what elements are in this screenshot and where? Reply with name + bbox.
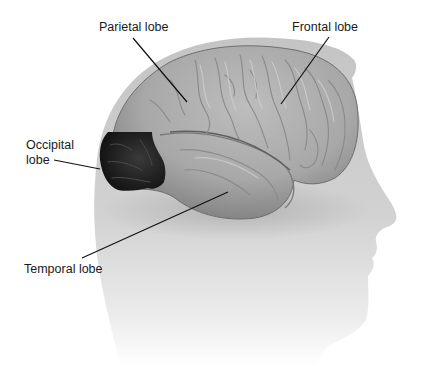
label-parietal-lobe: Parietal lobe xyxy=(99,20,169,35)
label-temporal-lobe: Temporal lobe xyxy=(24,262,103,277)
diagram-canvas xyxy=(0,0,423,366)
brain-lobes-diagram: Parietal lobe Frontal lobe Occipital lob… xyxy=(0,0,423,366)
label-frontal-lobe: Frontal lobe xyxy=(292,20,358,35)
label-occipital-lobe: Occipital lobe xyxy=(26,138,74,168)
